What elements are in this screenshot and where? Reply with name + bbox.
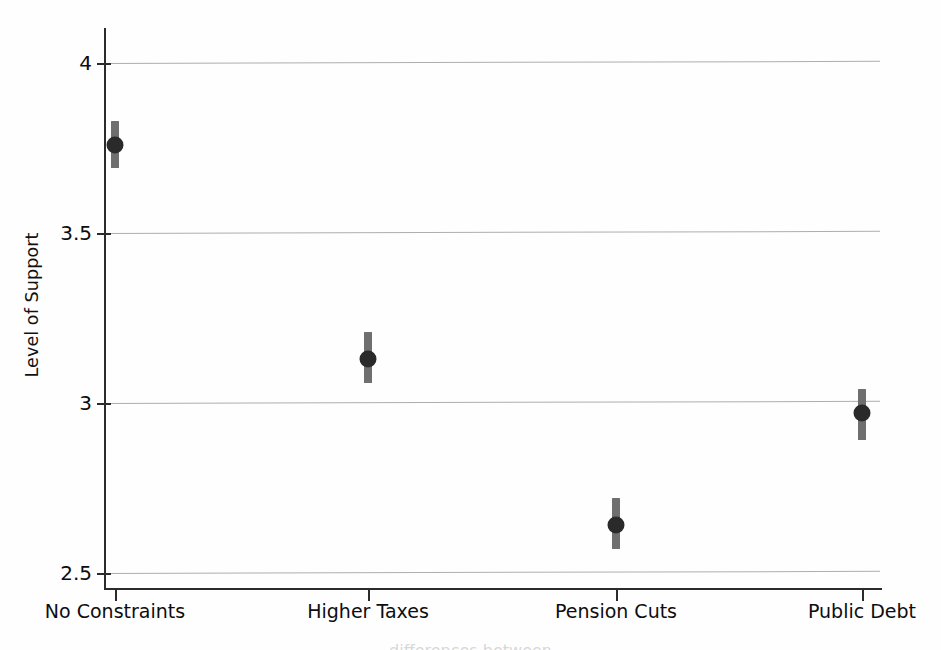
plot-area [104, 28, 882, 590]
gridline [104, 61, 880, 64]
x-axis-line [104, 588, 882, 590]
caption-remnant: differences between [0, 641, 941, 650]
figure-container: Level of Support 43.532.5 No Constraints… [0, 0, 941, 650]
y-tick-label: 3 [79, 393, 92, 413]
y-tick-mark [97, 403, 111, 405]
y-axis-label: Level of Support [22, 195, 42, 415]
data-point [608, 517, 625, 534]
y-tick-label: 2.5 [60, 563, 92, 583]
y-tick-label: 3.5 [60, 223, 92, 243]
x-category-label: No Constraints [45, 600, 185, 622]
data-point [360, 350, 377, 367]
x-category-label: Public Debt [808, 600, 916, 622]
data-point [107, 136, 124, 153]
x-category-label: Pension Cuts [555, 600, 677, 622]
y-tick-label: 4 [79, 53, 92, 73]
data-point [854, 405, 871, 422]
y-axis-line [104, 28, 106, 590]
gridline [104, 401, 880, 404]
gridline [104, 231, 880, 234]
x-category-label: Higher Taxes [307, 600, 429, 622]
y-tick-mark [97, 573, 111, 575]
y-tick-mark [97, 233, 111, 235]
y-tick-mark [97, 63, 111, 65]
gridline [104, 571, 880, 574]
